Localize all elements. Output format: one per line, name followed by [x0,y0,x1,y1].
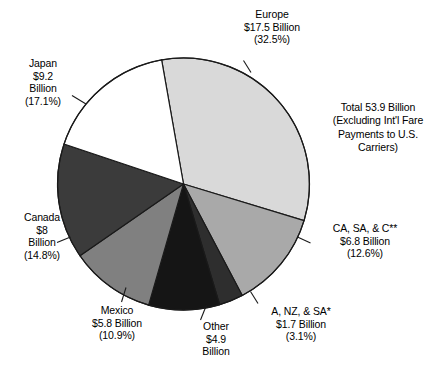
leader-line-europe [244,61,252,73]
slice-label-europe: Europe $17.5 Billion (32.5%) [213,8,331,46]
pie-slice-group [57,58,309,310]
chart-page: Europe $17.5 Billion (32.5%) Japan $9.2 … [0,0,436,379]
total-note: Total 53.9 Billion (Excluding Int'l Fare… [320,101,436,155]
slice-label-mexico: Mexico $5.8 Billion (10.9%) [62,304,172,342]
slice-label-a-nz-sa: A, NZ, & SA* $1.7 Billion (3.1%) [243,305,359,343]
slice-label-japan: Japan $9.2 Billion (17.1%) [2,57,84,107]
slice-label-ca-sa-c: CA, SA, & C** $6.8 Billion (12.6%) [303,222,427,260]
leader-line-anzsa [251,292,259,304]
slice-label-canada: Canada $8 Billion (14.8%) [0,211,84,261]
